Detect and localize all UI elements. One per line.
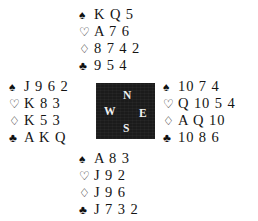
compass-west-label: W: [104, 106, 116, 118]
west-spades-row: ♠ J 9 6 2: [9, 78, 69, 95]
club-icon: ♣: [79, 58, 94, 75]
south-diamonds-row: ♢ J 9 6: [79, 184, 139, 201]
north-diamonds-row: ♢ 8 7 4 2: [79, 40, 140, 57]
east-diamonds-row: ♢ A Q 10: [163, 112, 236, 129]
north-diamonds-cards: 8 7 4 2: [94, 40, 140, 57]
south-clubs-cards: J 7 3 2: [94, 201, 139, 218]
south-spades-cards: A 8 3: [94, 150, 130, 167]
club-icon: ♣: [79, 202, 94, 219]
west-clubs-cards: A K Q: [24, 129, 66, 146]
east-spades-cards: 10 7 4: [178, 78, 220, 95]
compass-box: N W E S: [96, 83, 155, 139]
east-hand: ♠ 10 7 4 ♡ Q 10 5 4 ♢ A Q 10 ♣ 10 8 6: [163, 78, 236, 146]
compass-south-label: S: [123, 123, 129, 135]
west-diamonds-cards: K 5 3: [24, 112, 61, 129]
diamond-icon: ♢: [9, 113, 24, 130]
east-diamonds-cards: A Q 10: [178, 112, 225, 129]
north-hearts-row: ♡ A 7 6: [79, 23, 140, 40]
heart-icon: ♡: [79, 168, 94, 185]
south-hand: ♠ A 8 3 ♡ J 9 2 ♢ J 9 6 ♣ J 7 3 2: [79, 150, 139, 218]
south-spades-row: ♠ A 8 3: [79, 150, 139, 167]
north-hearts-cards: A 7 6: [94, 23, 130, 40]
west-clubs-row: ♣ A K Q: [9, 129, 69, 146]
east-spades-row: ♠ 10 7 4: [163, 78, 236, 95]
east-hearts-cards: Q 10 5 4: [178, 95, 236, 112]
west-diamonds-row: ♢ K 5 3: [9, 112, 69, 129]
south-diamonds-cards: J 9 6: [94, 184, 126, 201]
club-icon: ♣: [163, 130, 178, 147]
north-clubs-row: ♣ 9 5 4: [79, 57, 140, 74]
south-hearts-cards: J 9 2: [94, 167, 126, 184]
east-hearts-row: ♡ Q 10 5 4: [163, 95, 236, 112]
south-clubs-row: ♣ J 7 3 2: [79, 201, 139, 218]
diamond-icon: ♢: [79, 41, 94, 58]
spade-icon: ♠: [9, 79, 24, 96]
west-hearts-row: ♡ K 8 3: [9, 95, 69, 112]
west-hearts-cards: K 8 3: [24, 95, 61, 112]
south-hearts-row: ♡ J 9 2: [79, 167, 139, 184]
spade-icon: ♠: [79, 151, 94, 168]
north-clubs-cards: 9 5 4: [94, 57, 128, 74]
compass-north-label: N: [123, 90, 131, 102]
north-spades-cards: K Q 5: [94, 6, 134, 23]
compass-east-label: E: [139, 108, 147, 120]
east-clubs-row: ♣ 10 8 6: [163, 129, 236, 146]
north-spades-row: ♠ K Q 5: [79, 6, 140, 23]
diamond-icon: ♢: [163, 113, 178, 130]
spade-icon: ♠: [163, 79, 178, 96]
north-hand: ♠ K Q 5 ♡ A 7 6 ♢ 8 7 4 2 ♣ 9 5 4: [79, 6, 140, 74]
club-icon: ♣: [9, 130, 24, 147]
heart-icon: ♡: [9, 96, 24, 113]
west-hand: ♠ J 9 6 2 ♡ K 8 3 ♢ K 5 3 ♣ A K Q: [9, 78, 69, 146]
spade-icon: ♠: [79, 7, 94, 24]
heart-icon: ♡: [79, 24, 94, 41]
west-spades-cards: J 9 6 2: [24, 78, 69, 95]
heart-icon: ♡: [163, 96, 178, 113]
bridge-deal-diagram: ♠ K Q 5 ♡ A 7 6 ♢ 8 7 4 2 ♣ 9 5 4 ♠ J 9 …: [0, 0, 258, 221]
diamond-icon: ♢: [79, 185, 94, 202]
east-clubs-cards: 10 8 6: [178, 129, 220, 146]
